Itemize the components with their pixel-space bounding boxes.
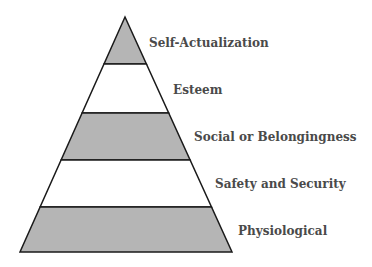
pyramid-level-self-actualization <box>104 17 146 64</box>
level-label-social: Social or Belongingness <box>194 130 357 144</box>
pyramid-level-social <box>61 113 190 160</box>
pyramid-level-physiological <box>20 207 232 252</box>
level-label-physiological: Physiological <box>238 224 328 238</box>
pyramid-level-safety <box>40 160 211 207</box>
pyramid-level-esteem <box>82 64 169 113</box>
level-label-self-actualization: Self-Actualization <box>149 36 269 50</box>
level-label-esteem: Esteem <box>173 83 223 97</box>
level-label-safety: Safety and Security <box>215 177 347 191</box>
pyramid-diagram: Self-Actualization Esteem Social or Belo… <box>0 0 372 267</box>
